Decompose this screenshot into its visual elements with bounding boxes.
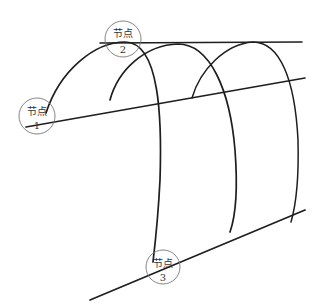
node-2-label: 节点	[113, 28, 133, 39]
node-3-label: 节点	[153, 258, 173, 269]
bottom-base-line	[90, 210, 305, 300]
node-3-marker: 节点 3	[146, 250, 180, 284]
arch-2	[110, 44, 236, 232]
node-1-label: 节点	[27, 106, 47, 117]
node-1-number: 1	[34, 120, 40, 131]
arch-frame-diagram: 节点 1 节点 2 节点 3	[0, 0, 321, 304]
node-2-marker: 节点 2	[105, 21, 141, 57]
node-2-number: 2	[120, 44, 126, 55]
arch-3	[192, 42, 298, 222]
node-3-number: 3	[160, 272, 166, 283]
node-1-marker: 节点 1	[19, 98, 55, 134]
arch-1	[46, 42, 161, 262]
middle-base-line	[26, 78, 305, 127]
